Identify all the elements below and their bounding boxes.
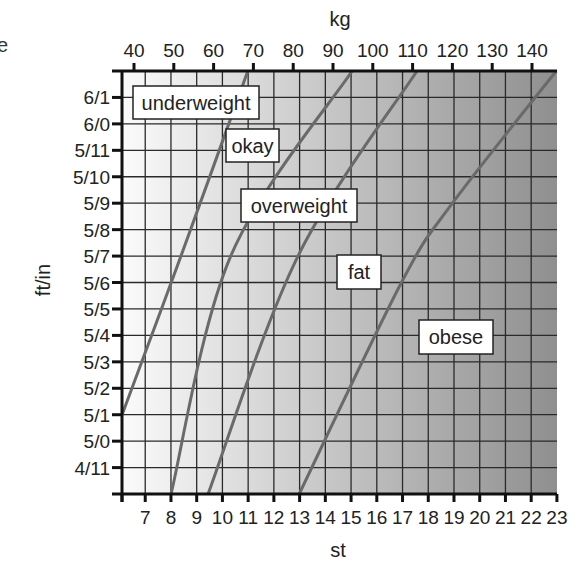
stone-tick-label: 19 xyxy=(443,507,464,528)
zone-label-obese: obese xyxy=(419,320,493,354)
stone-tick-label: 21 xyxy=(495,507,516,528)
stone-tick-label: 9 xyxy=(191,507,202,528)
stone-tick-label: 8 xyxy=(166,507,177,528)
height-tick-label: 5/1 xyxy=(84,405,110,426)
height-tick-label: 4/11 xyxy=(74,458,110,479)
stone-tick-label: 13 xyxy=(289,507,310,528)
kg-tick-label: 100 xyxy=(357,40,389,61)
stone-axis-ticks: 7891011121314151617181920212223 xyxy=(122,494,567,528)
svg-text:okay: okay xyxy=(231,135,273,157)
kg-tick-label: 140 xyxy=(516,40,548,61)
svg-text:obese: obese xyxy=(429,326,484,348)
stone-tick-label: 11 xyxy=(238,507,258,528)
kg-tick-label: 70 xyxy=(243,40,264,61)
stone-tick-label: 12 xyxy=(263,507,284,528)
stone-tick-label: 17 xyxy=(392,507,413,528)
stone-tick-label: 14 xyxy=(315,507,337,528)
height-tick-label: 5/0 xyxy=(84,431,110,452)
svg-text:underweight: underweight xyxy=(142,92,251,114)
kg-tick-label: 50 xyxy=(163,40,184,61)
height-tick-label: 5/3 xyxy=(84,352,110,373)
kg-tick-label: 40 xyxy=(123,40,144,61)
stone-tick-label: 15 xyxy=(340,507,361,528)
svg-text:fat: fat xyxy=(348,261,371,283)
kg-axis-ticks: 405060708090100110120130140 xyxy=(123,40,547,71)
stone-tick-label: 16 xyxy=(366,507,387,528)
kg-tick-label: 60 xyxy=(203,40,224,61)
zone-label-overweight: overweight xyxy=(241,189,357,222)
height-tick-label: 5/9 xyxy=(84,193,110,214)
height-tick-label: 5/2 xyxy=(84,378,110,399)
kg-axis-title: kg xyxy=(329,8,350,30)
height-axis-ticks: 4/115/05/15/25/35/45/55/65/75/85/95/105/… xyxy=(73,87,122,478)
kg-tick-label: 90 xyxy=(322,40,343,61)
kg-tick-label: 120 xyxy=(437,40,469,61)
stone-axis-title: st xyxy=(330,539,346,561)
height-tick-label: 6/0 xyxy=(84,114,110,135)
stone-tick-label: 23 xyxy=(546,507,567,528)
zone-label-fat: fat xyxy=(337,255,381,289)
height-tick-label: 5/10 xyxy=(73,167,110,188)
stone-tick-label: 10 xyxy=(212,507,233,528)
zone-label-underweight: underweight xyxy=(133,86,259,119)
svg-text:overweight: overweight xyxy=(251,195,348,217)
height-tick-label: 5/5 xyxy=(84,299,110,320)
height-axis-title: ft/in xyxy=(32,264,54,296)
kg-tick-label: 130 xyxy=(476,40,508,61)
stone-tick-label: 22 xyxy=(521,507,542,528)
height-tick-label: 5/6 xyxy=(84,273,110,294)
height-tick-label: 5/4 xyxy=(84,325,111,346)
height-tick-label: 5/11 xyxy=(74,140,110,161)
height-tick-label: 5/8 xyxy=(84,220,110,241)
height-tick-label: 5/7 xyxy=(84,246,110,267)
kg-tick-label: 80 xyxy=(283,40,304,61)
stone-tick-label: 18 xyxy=(418,507,439,528)
stone-tick-label: 7 xyxy=(140,507,151,528)
stone-tick-label: 20 xyxy=(469,507,490,528)
bmi-chart: 405060708090100110120130140 789101112131… xyxy=(0,0,582,563)
height-tick-label: 6/1 xyxy=(84,87,110,108)
zone-label-okay: okay xyxy=(226,129,279,162)
kg-tick-label: 110 xyxy=(397,40,427,61)
